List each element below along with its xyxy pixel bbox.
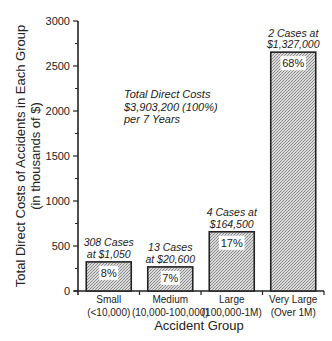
total-note: Total Direct Costs$3,903,200 (100%)per 7… [123, 88, 218, 125]
percent-label: 8% [101, 267, 117, 279]
bar: 7%13 Casesat $20,600 [145, 241, 195, 291]
x-category-label: Very Large [269, 294, 318, 305]
y-tick-label: 0 [64, 285, 70, 297]
y-tick-label: 1000 [46, 195, 70, 207]
percent-label: 7% [162, 272, 178, 284]
total-note-line: per 7 Years [123, 113, 181, 125]
y-tick-label: 3000 [46, 15, 70, 27]
y-axis: 050010001500200025003000 [46, 15, 78, 297]
y-tick-label: 2000 [46, 105, 70, 117]
y-tick-label: 2500 [46, 60, 70, 72]
percent-label: 17% [221, 237, 243, 249]
y-axis-subtitle: (in thousands of $) [28, 102, 43, 210]
bar-chart: 050010001500200025003000 Small(<10,000)M… [0, 0, 332, 341]
y-tick-label: 1500 [46, 150, 70, 162]
x-category-label: Large [219, 294, 245, 305]
total-note-line: Total Direct Costs [124, 88, 211, 100]
bar: 68%2 Cases at$1,327,000 [266, 27, 320, 291]
bar-annotation: at $1,050 [87, 248, 131, 260]
bar: 8%308 Casesat $1,050 [84, 236, 135, 291]
bar-annotation: 308 Cases [84, 236, 135, 248]
y-axis-title: Total Direct Costs of Accidents in Each … [13, 25, 28, 287]
x-category-label: (<10,000) [87, 307, 130, 318]
x-category-label: (10,000-100,000) [132, 307, 209, 318]
bar-annotation: 4 Cases at [207, 206, 258, 218]
x-axis: Small(<10,000)Medium(10,000-100,000)Larg… [74, 291, 324, 318]
x-category-label: (Over 1M) [271, 307, 316, 318]
y-tick-label: 500 [52, 240, 70, 252]
x-axis-title: Accident Group [154, 318, 244, 333]
x-category-label: Medium [152, 294, 188, 305]
bar-annotation: $1,327,000 [266, 38, 320, 50]
percent-label: 68% [282, 57, 304, 69]
x-category-label: (100,000-1M) [202, 307, 262, 318]
bar: 17%4 Cases at$164,500 [207, 206, 258, 291]
bar-annotation: $164,500 [209, 218, 254, 230]
bar-annotation: at $20,600 [145, 253, 195, 265]
bars: 8%308 Casesat $1,0507%13 Casesat $20,600… [84, 27, 320, 291]
x-category-label: Small [96, 294, 121, 305]
bar-annotation: 13 Cases [148, 241, 193, 253]
total-note-line: $3,903,200 (100%) [123, 101, 218, 113]
bar-annotation: 2 Cases at [267, 27, 319, 39]
